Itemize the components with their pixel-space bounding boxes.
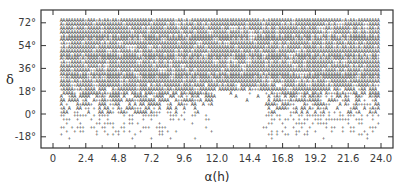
sky-coverage-chart: AAAAAAAAA+AAA+A+AA+AA+AAAAAAAAAAAA+AAAAA…	[0, 0, 400, 188]
data-point: A	[68, 105, 72, 111]
data-point: +	[330, 128, 333, 134]
x-tick-label: 12.0	[206, 153, 228, 164]
data-point: +	[295, 131, 298, 137]
data-point: +	[377, 82, 380, 88]
data-point: A	[377, 93, 381, 99]
data-point: +	[95, 131, 98, 137]
data-point: +	[92, 105, 95, 111]
data-point: +	[166, 128, 169, 134]
data-point: +	[270, 135, 273, 141]
data-point: A	[246, 97, 250, 103]
data-point: A	[235, 93, 239, 99]
data-point: +	[322, 135, 325, 141]
data-point: +	[84, 112, 87, 118]
data-point: +	[205, 124, 208, 130]
data-point: +	[314, 128, 317, 134]
data-point: +	[325, 124, 328, 130]
data-point: +	[341, 128, 344, 134]
data-point: +	[333, 124, 336, 130]
data-point: +	[360, 131, 363, 137]
data-point: +	[90, 116, 93, 122]
data-point: +	[308, 124, 311, 130]
data-point: A	[196, 109, 200, 115]
data-point: +	[169, 135, 172, 141]
y-tick-label: 54°	[18, 40, 36, 51]
data-points: AAAAAAAAA+AAA+A+AA+AA+AAAAAAAAAAAA+AAAAA…	[60, 17, 381, 141]
data-point: +	[174, 128, 177, 134]
data-point: +	[131, 135, 134, 141]
data-point: +	[117, 131, 120, 137]
data-point: +	[150, 135, 153, 141]
y-tick-label: -18°	[15, 131, 36, 142]
data-point: +	[133, 131, 136, 137]
data-point: +	[68, 116, 71, 122]
data-point: +	[142, 116, 145, 122]
data-point: +	[328, 101, 331, 107]
data-point: +	[371, 128, 374, 134]
data-point: +	[82, 128, 85, 134]
data-point: +	[360, 120, 363, 126]
data-point: +	[155, 112, 158, 118]
data-point: +	[158, 109, 161, 115]
data-point: +	[333, 109, 336, 115]
data-point: +	[273, 116, 276, 122]
y-axis-title: δ	[6, 72, 14, 87]
x-axis-title: α(h)	[205, 170, 230, 184]
x-tick-label: 21.6	[337, 153, 359, 164]
data-point: +	[128, 128, 131, 134]
data-point: +	[194, 135, 197, 141]
data-point: A	[363, 90, 367, 96]
data-point: +	[139, 128, 142, 134]
x-tick-label: 9.6	[176, 153, 192, 164]
data-point: +	[60, 131, 63, 137]
data-point: +	[194, 112, 197, 118]
data-point: +	[73, 128, 76, 134]
data-point: +	[276, 131, 279, 137]
data-point: +	[265, 124, 268, 130]
data-point: +	[147, 124, 150, 130]
data-point: +	[352, 128, 355, 134]
data-point: +	[284, 124, 287, 130]
data-point: +	[92, 112, 95, 118]
data-point: +	[185, 101, 188, 107]
data-point: +	[131, 120, 134, 126]
data-point: +	[112, 109, 115, 115]
data-point: +	[183, 109, 186, 115]
data-point: +	[65, 128, 68, 134]
data-point: A	[256, 93, 260, 99]
data-point: +	[366, 112, 369, 118]
data-point: +	[377, 120, 380, 126]
data-point: +	[68, 135, 71, 141]
data-point: A	[87, 109, 91, 115]
data-point: +	[300, 124, 303, 130]
data-point: +	[172, 116, 175, 122]
data-point: +	[377, 112, 380, 118]
data-point: +	[287, 116, 290, 122]
data-point: +	[207, 116, 210, 122]
y-tick-label: 36°	[18, 63, 36, 74]
data-point: +	[65, 120, 68, 126]
x-tick-label: 2.4	[78, 153, 94, 164]
x-tick-label: 19.2	[304, 153, 326, 164]
data-point: +	[191, 120, 194, 126]
data-point: +	[150, 116, 153, 122]
data-point: +	[306, 131, 309, 137]
data-point: +	[306, 116, 309, 122]
data-point: +	[374, 124, 377, 130]
data-point: +	[177, 116, 180, 122]
data-point: +	[297, 128, 300, 134]
data-point: +	[287, 131, 290, 137]
data-point: +	[366, 135, 369, 141]
x-tick-label: 14.4	[239, 153, 261, 164]
data-point: +	[123, 128, 126, 134]
data-point: +	[106, 131, 109, 137]
x-tick-label: 7.2	[143, 153, 159, 164]
data-point: A	[213, 93, 217, 99]
y-tick-label: 72°	[18, 17, 36, 28]
data-point: +	[136, 120, 139, 126]
data-point: +	[248, 90, 251, 96]
x-tick-label: 0	[50, 153, 56, 164]
data-point: A	[210, 101, 214, 107]
data-point: A	[377, 105, 381, 111]
data-point: +	[303, 120, 306, 126]
